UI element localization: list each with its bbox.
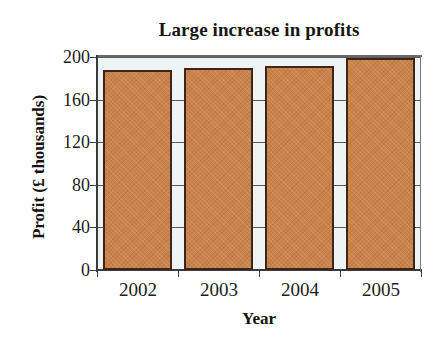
y-axis-line (96, 55, 98, 272)
x-axis-tick (97, 270, 98, 277)
y-axis-tick-label-text: 200 (46, 48, 90, 66)
bar-chart: Large increase in profits 20016012080400… (0, 0, 437, 341)
plot-frame-right (420, 55, 421, 272)
y-axis-title-text: Profit (£ thousands) (29, 95, 49, 239)
bar (103, 70, 172, 270)
x-axis-tick (259, 270, 260, 277)
y-axis-tick (90, 100, 98, 101)
y-axis-tick-label-text: 0 (46, 261, 90, 279)
y-axis-tick-label-text: 40 (46, 218, 90, 236)
bar (265, 66, 334, 270)
x-axis-tick-label: 2005 (341, 279, 421, 301)
y-axis-title: Profit (£ thousands) (26, 52, 52, 282)
x-axis-tick-label: 2002 (98, 279, 178, 301)
chart-title: Large increase in profits (97, 19, 421, 41)
x-axis-title: Year (97, 309, 421, 329)
y-axis-tick-label-text: 120 (46, 133, 90, 151)
x-axis-tick (340, 270, 341, 277)
x-axis-tick (421, 270, 422, 277)
y-axis-tick (90, 57, 98, 58)
bar (184, 68, 253, 270)
y-axis-tick (90, 227, 98, 228)
y-axis-tick-label-text: 160 (46, 91, 90, 109)
y-axis-tick (90, 185, 98, 186)
bar (346, 58, 415, 270)
x-axis-tick-label: 2004 (260, 279, 340, 301)
x-axis-tick-label: 2003 (179, 279, 259, 301)
plot-frame-top (96, 55, 422, 57)
y-axis-tick (90, 142, 98, 143)
x-axis-tick (178, 270, 179, 277)
y-axis-tick-label-text: 80 (46, 176, 90, 194)
